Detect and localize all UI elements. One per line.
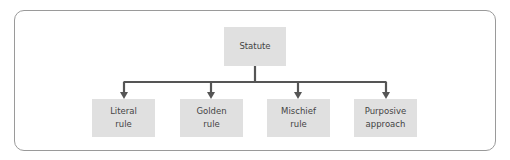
node-label-line2: approach (366, 118, 406, 131)
node-label-line1: Mischief (281, 105, 316, 118)
node-mischief-rule: Mischief rule (267, 99, 330, 137)
node-purposive-approach: Purposive approach (354, 99, 417, 137)
node-statute: Statute (224, 27, 286, 66)
node-literal-rule: Literal rule (92, 99, 155, 137)
node-label-line2: rule (115, 118, 131, 131)
node-label-line1: Golden (196, 105, 226, 118)
node-statute-label: Statute (239, 40, 270, 53)
node-label-line1: Literal (110, 105, 137, 118)
node-label-line2: rule (290, 118, 306, 131)
node-label-line1: Purposive (365, 105, 407, 118)
node-label-line2: rule (203, 118, 219, 131)
node-golden-rule: Golden rule (180, 99, 243, 137)
